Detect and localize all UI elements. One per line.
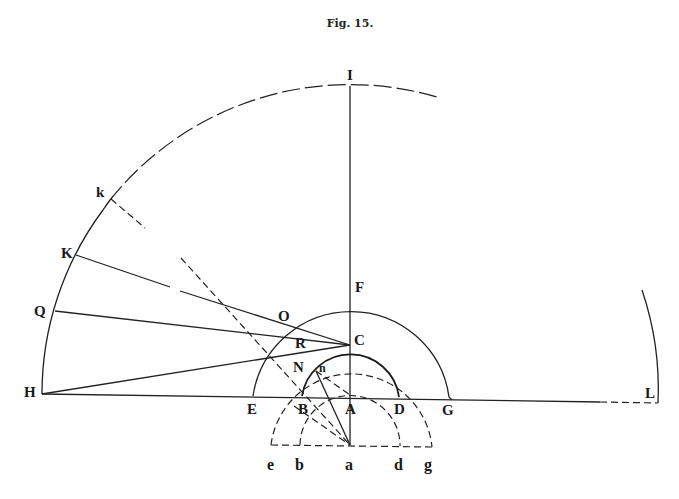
line-KC-part1 [76, 255, 170, 287]
label-E: E [247, 401, 257, 417]
label-a: a [345, 456, 353, 473]
label-H: H [24, 384, 36, 400]
label-K: K [61, 245, 73, 261]
large-arc-left [42, 210, 103, 394]
label-I: I [347, 67, 353, 83]
label-g: g [424, 456, 432, 474]
label-d: d [394, 456, 403, 473]
label-k: k [96, 184, 105, 200]
label-N: N [293, 359, 304, 375]
line-KC-part2 [180, 291, 350, 345]
large-arc-k-segment [103, 200, 110, 210]
label-n: n [319, 361, 326, 375]
label-R: R [295, 335, 306, 351]
label-D: D [394, 401, 405, 417]
label-e: e [267, 456, 274, 473]
label-C: C [354, 332, 365, 348]
figure-caption: Fig. 15. [327, 17, 373, 30]
label-b: b [295, 456, 304, 473]
baseline-eg [271, 445, 432, 447]
label-L: L [645, 385, 655, 401]
label-G: G [442, 402, 454, 418]
large-arc-upper [110, 85, 437, 200]
geometric-figure: Fig. 15. I F C O R N n k K Q H E B A D G… [0, 0, 679, 499]
label-Q: Q [34, 303, 46, 319]
horizontal-axis-HL [42, 394, 600, 402]
dashed-line-to-a [181, 258, 350, 445]
dashed-line-k [111, 199, 145, 228]
horizontal-axis-dashed-end [600, 402, 658, 403]
label-F: F [355, 279, 364, 295]
label-A: A [345, 401, 356, 417]
label-B: B [298, 401, 308, 417]
label-O: O [278, 308, 290, 324]
